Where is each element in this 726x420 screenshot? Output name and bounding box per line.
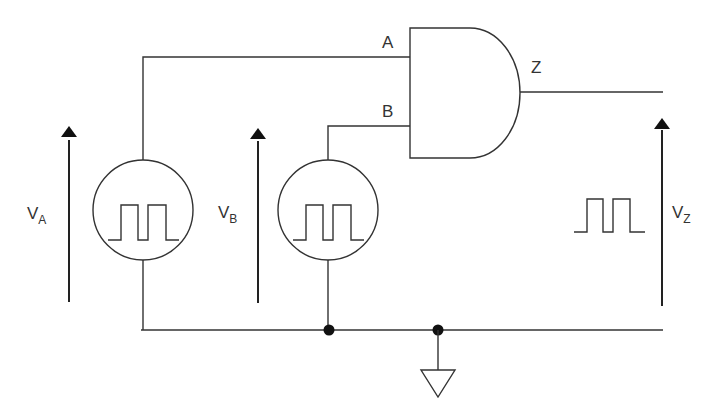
wire-input-a <box>143 57 410 160</box>
label-vb: VB <box>218 204 237 221</box>
circuit-diagram <box>0 0 726 420</box>
arrow-head-vz <box>654 118 670 129</box>
junction-dot-b <box>324 325 335 336</box>
square-wave-output <box>574 199 645 232</box>
label-input-b: B <box>382 103 393 120</box>
pulse-source-b <box>278 160 378 260</box>
label-vz: VZ <box>672 204 691 221</box>
label-input-a: A <box>382 34 393 51</box>
pulse-source-a <box>93 160 193 260</box>
square-wave-icon-a <box>108 205 179 240</box>
wire-input-b <box>328 126 410 160</box>
arrow-head-va <box>61 126 77 137</box>
and-gate <box>410 28 520 158</box>
square-wave-icon-b <box>293 205 364 240</box>
label-output-z: Z <box>531 59 541 76</box>
arrow-head-vb <box>250 128 266 139</box>
label-va: VA <box>27 205 46 222</box>
ground-icon <box>421 370 455 397</box>
